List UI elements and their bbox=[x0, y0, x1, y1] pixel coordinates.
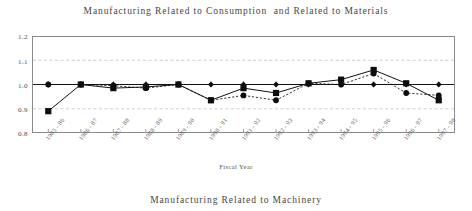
x-axis-title: Fiscal Year bbox=[0, 163, 472, 170]
bottom-caption: Manufacturing Related to Machinery bbox=[0, 195, 472, 205]
data-series-layer bbox=[45, 67, 442, 114]
plot-canvas bbox=[0, 0, 472, 211]
chart-figure: Manufacturing Related to Consumption and… bbox=[0, 0, 472, 211]
